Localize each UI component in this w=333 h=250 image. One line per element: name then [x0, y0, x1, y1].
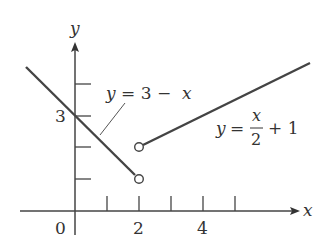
open-endpoint-2-1 [135, 175, 144, 184]
svg-text:=: = [230, 118, 244, 138]
x-tick-label-2: 2 [133, 218, 144, 238]
svg-text:y: y [215, 118, 226, 138]
open-endpoint-2-2 [135, 143, 144, 152]
svg-text:2: 2 [251, 130, 261, 149]
label-y-equals-3-minus-x: y = 3 − x [105, 83, 192, 103]
svg-text:x: x [252, 106, 261, 125]
label-leader-line [100, 103, 125, 135]
x-axis-label: x [303, 200, 313, 220]
svg-text:+ 1: + 1 [268, 118, 298, 138]
y-axis-label: y [69, 18, 80, 38]
y-ticks [75, 84, 91, 179]
x-tick-label-4: 4 [197, 218, 208, 238]
origin-label: 0 [55, 218, 66, 238]
y-tick-label-3: 3 [55, 106, 66, 126]
piecewise-graph: x y 0 2 4 3 y = 3 − x y = x 2 + 1 [0, 0, 333, 250]
x-ticks [107, 196, 235, 211]
label-y-equals-x-over-2-plus-1: y = x 2 + 1 [215, 106, 298, 149]
